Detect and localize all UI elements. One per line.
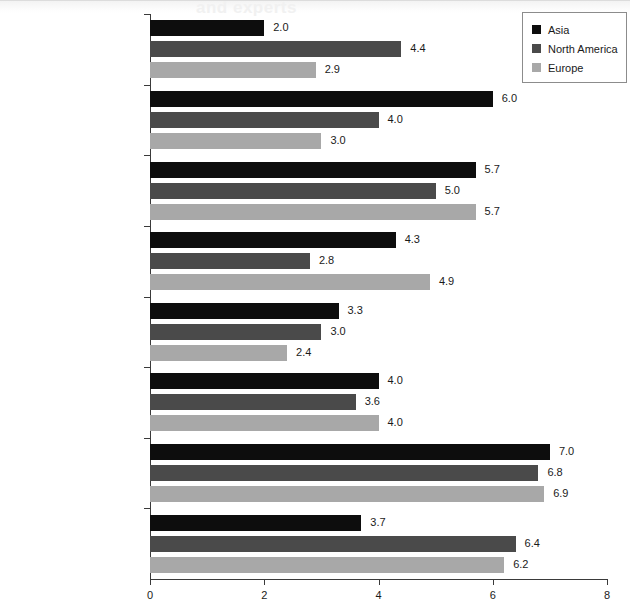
bar-row: 2.8 <box>150 253 607 269</box>
bar-row: 6.4 <box>150 536 607 552</box>
bar-row: 6.2 <box>150 557 607 573</box>
bar-value-label: 5.7 <box>485 205 500 217</box>
bar-value-label: 6.0 <box>502 92 517 104</box>
grouped-bar-chart: 02468 Infrastructure and support service… <box>0 0 630 613</box>
bar-row: 4.9 <box>150 274 607 290</box>
x-tick-label-0: 0 <box>147 589 153 601</box>
bar-row: 6.0 <box>150 91 607 107</box>
bar-europe <box>150 345 287 361</box>
bar-europe <box>150 204 476 220</box>
bar-row: 5.7 <box>150 162 607 178</box>
bar-value-label: 5.0 <box>445 184 460 196</box>
bar-north-america <box>150 394 356 410</box>
legend-label-north-america: North America <box>548 43 618 55</box>
bar-value-label: 2.4 <box>296 346 311 358</box>
bar-asia <box>150 373 379 389</box>
bar-europe <box>150 486 544 502</box>
x-tick-label-2: 2 <box>261 589 267 601</box>
x-tick-8 <box>607 579 608 585</box>
bar-value-label: 4.0 <box>388 374 403 386</box>
bar-row: 7.0 <box>150 444 607 460</box>
bar-row: 3.7 <box>150 515 607 531</box>
bar-group: Safety and security6.04.03.0 <box>150 85 607 156</box>
bar-value-label: 3.0 <box>330 325 345 337</box>
bar-europe <box>150 274 430 290</box>
bar-value-label: 4.0 <box>388 416 403 428</box>
bar-value-label: 3.7 <box>370 516 385 528</box>
bar-row: 6.8 <box>150 465 607 481</box>
bar-value-label: 6.2 <box>513 558 528 570</box>
bar-row: 2.4 <box>150 345 607 361</box>
bar-value-label: 4.0 <box>388 113 403 125</box>
bar-north-america <box>150 112 379 128</box>
bar-row: 5.0 <box>150 183 607 199</box>
bar-asia <box>150 303 339 319</box>
legend-item-asia: Asia <box>532 20 626 39</box>
bar-row: 4.0 <box>150 112 607 128</box>
x-tick-0 <box>150 579 151 585</box>
legend-swatch-north-america <box>532 44 541 53</box>
bar-europe <box>150 133 321 149</box>
x-tick-6 <box>493 579 494 585</box>
legend-item-north-america: North America <box>532 39 626 58</box>
bar-value-label: 4.3 <box>405 233 420 245</box>
bar-value-label: 7.0 <box>559 445 574 457</box>
bar-north-america <box>150 324 321 340</box>
bar-group: Range of accommodations4.03.64.0 <box>150 367 607 438</box>
bar-group: Access3.76.46.2 <box>150 508 607 579</box>
bar-north-america <box>150 183 436 199</box>
chart-legend: Asia North America Europe <box>522 12 627 83</box>
legend-swatch-asia <box>532 25 541 34</box>
x-tick-4 <box>379 579 380 585</box>
bar-value-label: 4.9 <box>439 275 454 287</box>
bar-value-label: 4.4 <box>410 42 425 54</box>
bar-row: 3.6 <box>150 394 607 410</box>
bar-row: 3.0 <box>150 133 607 149</box>
bar-value-label: 3.3 <box>348 304 363 316</box>
bar-asia <box>150 444 550 460</box>
legend-label-asia: Asia <box>548 24 569 36</box>
bar-asia <box>150 515 361 531</box>
bar-row: 5.7 <box>150 204 607 220</box>
bar-north-america <box>150 536 516 552</box>
bar-north-america <box>150 41 401 57</box>
legend-label-europe: Europe <box>548 62 583 74</box>
bar-value-label: 2.8 <box>319 254 334 266</box>
bar-value-label: 6.9 <box>553 487 568 499</box>
bar-europe <box>150 415 379 431</box>
bar-group: Cost5.75.05.7 <box>150 155 607 226</box>
bar-north-america <box>150 253 310 269</box>
bar-europe <box>150 62 316 78</box>
x-tick-label-4: 4 <box>375 589 381 601</box>
bar-value-label: 6.8 <box>547 466 562 478</box>
x-tick-2 <box>264 579 265 585</box>
bar-group: Appeal of destinations7.06.86.9 <box>150 438 607 509</box>
bar-value-label: 6.4 <box>525 537 540 549</box>
bar-group: Reputation of destination3.33.02.4 <box>150 297 607 368</box>
bar-row: 3.3 <box>150 303 607 319</box>
legend-swatch-europe <box>532 63 541 72</box>
bar-value-label: 2.9 <box>325 63 340 75</box>
bar-group: Size of meeting facilities4.32.84.9 <box>150 226 607 297</box>
bar-row: 4.0 <box>150 373 607 389</box>
x-tick-label-6: 6 <box>490 589 496 601</box>
bar-value-label: 3.6 <box>365 395 380 407</box>
bar-row: 4.0 <box>150 415 607 431</box>
bar-row: 3.0 <box>150 324 607 340</box>
plot-area: Infrastructure and support service2.04.4… <box>150 14 607 579</box>
x-tick-label-8: 8 <box>604 589 610 601</box>
bar-value-label: 2.0 <box>273 21 288 33</box>
bar-row: 4.3 <box>150 232 607 248</box>
bar-value-label: 3.0 <box>330 134 345 146</box>
bar-europe <box>150 557 504 573</box>
bar-row: 6.9 <box>150 486 607 502</box>
bar-asia <box>150 162 476 178</box>
bar-asia <box>150 91 493 107</box>
bar-asia <box>150 20 264 36</box>
bar-asia <box>150 232 396 248</box>
legend-item-europe: Europe <box>532 58 626 77</box>
bar-north-america <box>150 465 538 481</box>
bar-value-label: 5.7 <box>485 163 500 175</box>
